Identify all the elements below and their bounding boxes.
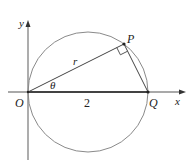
x-axis-arrow-icon [179, 90, 186, 95]
point-O [27, 91, 29, 93]
circle-diagram: y P r θ O 2 Q x [0, 0, 195, 164]
point-P-label: P [127, 33, 134, 45]
diagram-canvas [0, 0, 195, 164]
point-Q-label: Q [149, 97, 158, 109]
origin-label: O [15, 97, 24, 109]
segment-OP [28, 44, 124, 92]
diameter-length-label: 2 [84, 97, 90, 109]
y-axis-label: y [19, 18, 24, 29]
point-Q [146, 90, 149, 93]
y-axis-arrow-icon [26, 20, 31, 27]
x-axis-label: x [175, 96, 180, 107]
point-P [122, 42, 125, 45]
radius-label: r [73, 56, 77, 67]
angle-theta-label: θ [50, 80, 55, 91]
